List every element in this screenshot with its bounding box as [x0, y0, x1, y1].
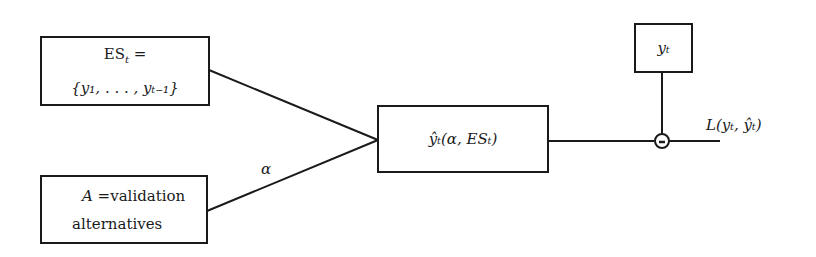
alpha-edge-label: α	[261, 160, 271, 178]
estimation-set-line1: ESt =	[104, 40, 147, 74]
estimation-set-line2: {y₁, . . . , yₜ₋₁}	[71, 74, 178, 102]
edge-alternatives-to-predictor	[207, 140, 378, 211]
alternatives-line2: alternatives	[72, 210, 162, 238]
observed-value-label: yₜ	[657, 34, 669, 62]
alternatives-box: A =validation alternatives	[40, 175, 208, 244]
alternatives-text: =validation	[93, 187, 185, 205]
predictor-box: ŷₜ(α, ESₜ)	[377, 105, 549, 173]
observed-value-box: yₜ	[634, 23, 693, 73]
predictor-label: ŷₜ(α, ESₜ)	[429, 125, 497, 153]
es-equals: =	[129, 45, 146, 63]
estimation-set-box: ESt = {y₁, . . . , yₜ₋₁}	[40, 36, 210, 106]
loss-output-label: L(yₜ, ŷₜ)	[706, 116, 762, 134]
alternatives-symbol: A	[82, 187, 93, 205]
es-text: ES	[104, 45, 125, 63]
alternatives-line1: A =validation	[82, 182, 185, 210]
edge-es-to-predictor	[209, 70, 378, 140]
